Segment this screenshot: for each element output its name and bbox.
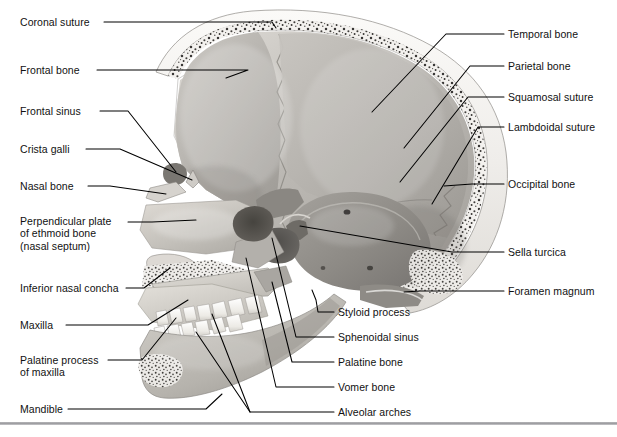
label-lambdoidal-suture: Lambdoidal suture bbox=[508, 121, 595, 133]
label-inferior-nasal-concha: Inferior nasal concha bbox=[20, 282, 119, 294]
label-foramen-magnum: Foramen magnum bbox=[508, 285, 594, 297]
label-coronal-suture: Coronal suture bbox=[20, 16, 90, 28]
label-palatine-bone: Palatine bone bbox=[338, 356, 403, 368]
label-styloid-process: Styloid process bbox=[338, 306, 410, 318]
label-frontal-sinus: Frontal sinus bbox=[20, 105, 81, 117]
label-crista-galli: Crista galli bbox=[20, 143, 70, 155]
label-vomer-bone: Vomer bone bbox=[338, 381, 395, 393]
footer-divider-rule bbox=[0, 422, 617, 425]
label-perpendicular-plate: Perpendicular plate of ethmoid bone (nas… bbox=[20, 215, 111, 252]
label-mandible: Mandible bbox=[20, 403, 63, 415]
label-palatine-process: Palatine process of maxilla bbox=[20, 354, 98, 379]
label-sphenoidal-sinus: Sphenoidal sinus bbox=[338, 331, 419, 343]
label-sella-turcica: Sella turcica bbox=[508, 246, 566, 258]
label-squamosal-suture: Squamosal suture bbox=[508, 91, 593, 103]
label-frontal-bone: Frontal bone bbox=[20, 64, 80, 76]
label-parietal-bone: Parietal bone bbox=[508, 60, 571, 72]
skull-figure: Coronal suture Frontal bone Frontal sinu… bbox=[0, 0, 617, 437]
label-nasal-bone: Nasal bone bbox=[20, 180, 74, 192]
label-layer: Coronal suture Frontal bone Frontal sinu… bbox=[0, 0, 617, 437]
label-alveolar-arches: Alveolar arches bbox=[338, 406, 411, 418]
label-occipital-bone: Occipital bone bbox=[508, 178, 575, 190]
label-temporal-bone: Temporal bone bbox=[508, 28, 578, 40]
label-maxilla: Maxilla bbox=[20, 319, 53, 331]
